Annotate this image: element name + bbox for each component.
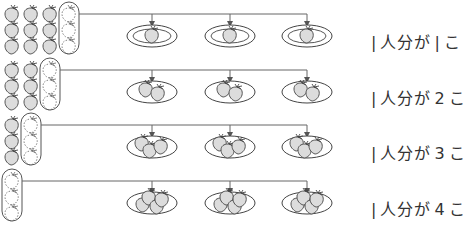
strawberry-icon (24, 61, 37, 78)
dashed-strawberry-icon (24, 148, 37, 165)
strawberry-icon (43, 37, 56, 54)
label-num: 2 (434, 89, 445, 108)
dashed-strawberry-icon (62, 37, 75, 54)
strawberry-icon (5, 116, 18, 133)
row-2 (5, 58, 332, 110)
strawberry-icon (24, 5, 37, 22)
dashed-strawberry-icon (24, 132, 37, 149)
dashed-strawberry-icon (43, 61, 56, 78)
label-mid: 人分が (380, 144, 431, 163)
strawberry-icon (24, 21, 37, 38)
row-1 (5, 2, 332, 54)
strawberry-icon (43, 5, 56, 22)
label-mid: 人分が (380, 89, 431, 108)
label-num: 3 (434, 144, 445, 163)
strawberry-icon (5, 93, 18, 110)
label-prefix: | (371, 200, 377, 219)
dashed-strawberry-icon (43, 93, 56, 110)
row-label: |人分が|こ (368, 29, 461, 53)
label-suffix: こ (449, 200, 466, 219)
dashed-strawberry-icon (43, 77, 56, 94)
label-num: | (434, 33, 440, 52)
strawberry-icon (24, 37, 37, 54)
dashed-strawberry-icon (5, 204, 18, 221)
strawberry-icon (24, 77, 37, 94)
dashed-strawberry-icon (24, 116, 37, 133)
strawberry-icon (5, 132, 18, 149)
strawberry-icon (5, 77, 18, 94)
strawberry-icon (5, 37, 18, 54)
strawberry-icon (5, 5, 18, 22)
row-3 (5, 113, 332, 165)
strawberry-icon (5, 21, 18, 38)
row-4 (2, 169, 332, 221)
dashed-strawberry-icon (5, 172, 18, 189)
strawberry-icon (5, 148, 18, 165)
strawberry-icon (43, 21, 56, 38)
strawberry-icon (5, 61, 18, 78)
label-mid: 人分が (380, 200, 431, 219)
label-suffix: こ (444, 33, 461, 52)
label-num: 4 (434, 200, 445, 219)
label-prefix: | (371, 33, 377, 52)
label-prefix: | (371, 144, 377, 163)
label-suffix: こ (449, 89, 466, 108)
row-label: |人分が3こ (368, 140, 466, 164)
label-mid: 人分が (380, 33, 431, 52)
strawberry-icon (24, 93, 37, 110)
row-label: |人分が4こ (368, 196, 466, 220)
dashed-strawberry-icon (5, 188, 18, 205)
dashed-strawberry-icon (62, 21, 75, 38)
label-prefix: | (371, 89, 377, 108)
dashed-strawberry-icon (62, 5, 75, 22)
label-suffix: こ (449, 144, 466, 163)
row-label: |人分が2こ (368, 85, 466, 109)
